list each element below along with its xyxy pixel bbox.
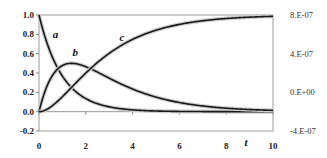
series-label-c: c: [120, 31, 125, 43]
y-tick-label: 0.8: [23, 29, 35, 39]
y-tick-label: 0.6: [23, 49, 35, 59]
x-tick-label: 2: [84, 141, 89, 151]
series-labels: abc: [53, 28, 125, 57]
y-tick-label: -0.2: [20, 126, 35, 136]
y-tick-label: 1.0: [23, 10, 35, 20]
series-lines: [39, 15, 273, 112]
x-tick-label: 6: [177, 141, 182, 151]
y2-tick-label: 0.E+00: [290, 87, 315, 97]
x-tick-label: 10: [269, 141, 279, 151]
y2-tick-label: 4.E-07: [290, 49, 313, 59]
series-label-a: a: [53, 28, 59, 40]
x-axis-label: t: [244, 136, 248, 148]
y-tick-label: 0.0: [23, 107, 35, 117]
x-tick-label: 8: [224, 141, 229, 151]
x-tick-label: 4: [130, 141, 135, 151]
y-tick-label: 0.4: [23, 68, 35, 78]
y2-tick-label: 8.E-07: [290, 10, 313, 20]
chart: 1.00.80.60.40.20.0-0.28.E-074.E-070.E+00…: [0, 0, 327, 158]
series-label-b: b: [73, 46, 79, 58]
y-tick-label: 0.2: [23, 87, 35, 97]
x-tick-label: 0: [37, 141, 42, 151]
y2-tick-label: -4.E-07: [290, 126, 316, 136]
